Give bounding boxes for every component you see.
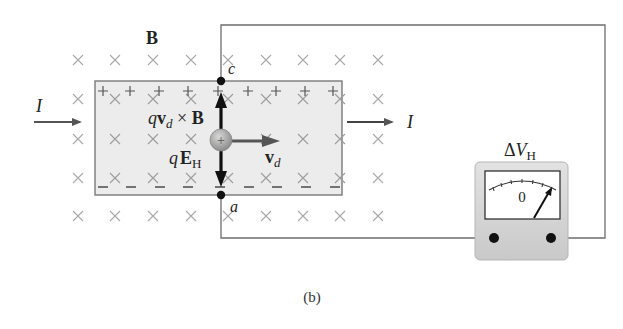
magnetic-force-label: qvd × B [148, 108, 204, 131]
point-c-label: c [228, 60, 235, 77]
contact-point-a [217, 191, 225, 199]
point-a-label: a [230, 198, 238, 215]
figure-caption: (b) [303, 289, 321, 306]
current-in-label: I [35, 96, 43, 116]
hall-voltmeter: ΔVH 0 [475, 140, 568, 260]
voltmeter-zero-label: 0 [518, 189, 526, 205]
voltmeter-title: ΔVH [504, 140, 536, 163]
current-out-label: I [406, 112, 414, 132]
particle-charge-symbol: + [217, 133, 225, 148]
voltmeter-terminal-right[interactable] [546, 233, 556, 243]
positive-charge-carrier: + [210, 129, 232, 151]
hall-effect-diagram: + B I I c a qvd × B qEH vd ΔVH 0 [0, 0, 623, 329]
field-label: B [146, 28, 158, 48]
voltmeter-terminal-left[interactable] [489, 233, 499, 243]
contact-point-c [217, 77, 225, 85]
